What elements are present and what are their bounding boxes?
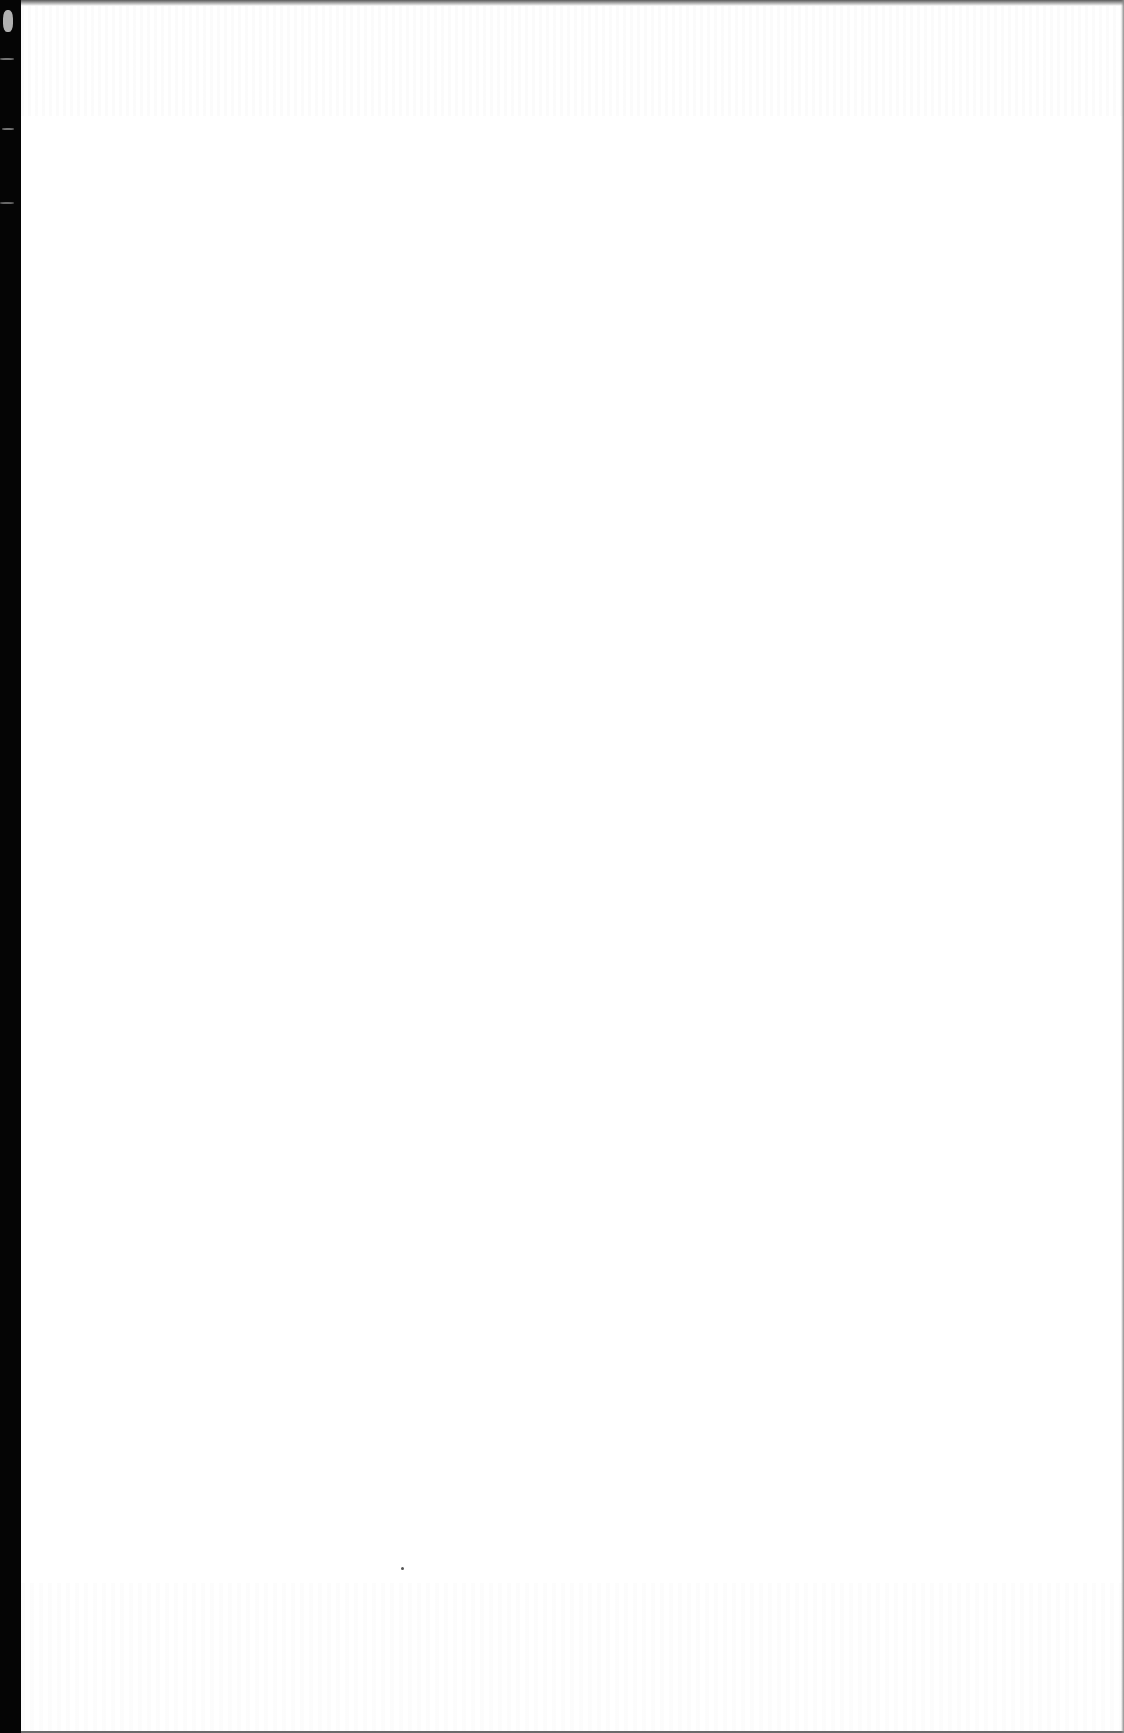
binding-speck xyxy=(3,10,13,32)
show-through-bottom xyxy=(21,1583,1124,1733)
binding-speck xyxy=(0,202,14,204)
show-through-top xyxy=(21,6,1124,116)
binding-edge xyxy=(0,0,21,1733)
scanned-page: Blank white page with black binding edge… xyxy=(0,0,1124,1733)
binding-speck xyxy=(2,128,14,130)
binding-speck xyxy=(0,58,14,60)
dust-speck xyxy=(401,1567,404,1570)
